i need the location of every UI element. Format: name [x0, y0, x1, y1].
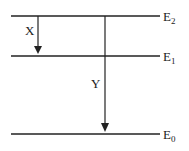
- transition-x-label: X: [25, 23, 35, 38]
- arrowhead-y-icon: [101, 123, 109, 132]
- arrowhead-x-icon: [34, 46, 42, 54]
- level-e2-label: E2: [163, 9, 175, 26]
- transition-y-label: Y: [91, 76, 101, 91]
- level-e1-label: E1: [163, 49, 175, 66]
- energy-level-diagram: X Y E2 E1 E0: [0, 0, 189, 151]
- level-e0-label: E0: [163, 127, 176, 144]
